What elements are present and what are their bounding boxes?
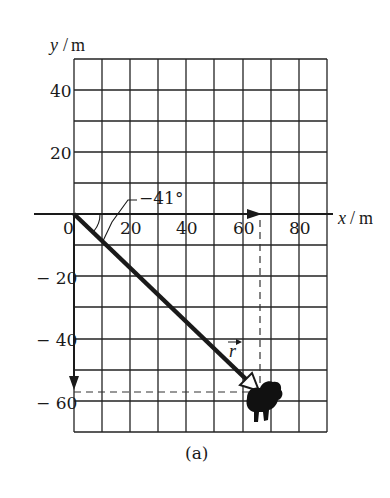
svg-text:x: x	[337, 208, 346, 228]
angle-label: −41°	[139, 188, 183, 208]
y-tick-neg40: − 40	[36, 330, 77, 350]
x-tick-labels: 0 20 40 60 80	[63, 218, 311, 238]
svg-text:/: /	[350, 208, 355, 228]
svg-text:m: m	[359, 208, 373, 228]
x-axis-title: x / m	[337, 208, 373, 228]
svg-text:m: m	[71, 35, 85, 55]
y-tick-40: 40	[50, 81, 72, 101]
svg-text:/: /	[63, 35, 68, 55]
svg-text:r: r	[229, 341, 237, 361]
grid	[74, 59, 327, 432]
x-tick-80: 80	[289, 218, 311, 238]
y-tick-neg60: − 60	[36, 393, 77, 413]
y-component-arrowhead-icon	[69, 376, 79, 390]
y-axis-title: y / m	[48, 35, 85, 55]
y-component	[69, 214, 79, 390]
y-tick-labels: 40 20 − 20 − 40 − 60	[36, 81, 77, 413]
vector-overarrow-icon	[236, 339, 242, 345]
x-tick-40: 40	[176, 218, 198, 238]
y-tick-neg20: − 20	[36, 268, 77, 288]
displacement-diagram: −41° r 0 20 40 60 80 40 20 − 20 − 40 − 6…	[0, 0, 390, 498]
vector-label: r	[228, 339, 242, 361]
svg-text:y: y	[48, 35, 58, 55]
y-tick-20: 20	[50, 143, 72, 163]
x-tick-60: 60	[233, 218, 255, 238]
x-tick-20: 20	[120, 218, 142, 238]
figure-caption: (a)	[185, 443, 208, 463]
x-tick-0: 0	[63, 218, 74, 238]
